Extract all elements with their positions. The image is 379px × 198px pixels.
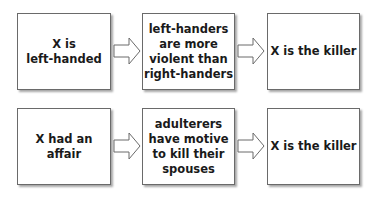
block-arrow-right-icon [113,37,141,65]
row2-conclusion-text: X is the killer [270,139,356,154]
row1-premise-text: X is left-handed [26,37,101,67]
row2-conclusion-box: X is the killer [267,108,360,185]
block-arrow-right-icon [113,132,141,160]
row2-premise-box: X had an affair [17,108,111,185]
block-arrow-right-icon [237,37,265,65]
row1-premise-box: X is left-handed [17,13,111,90]
row2-generalization-box: adulterers have motive to kill their spo… [142,108,235,185]
row1-generalization-text: left-handers are more violent than right… [144,22,233,82]
row1-generalization-box: left-handers are more violent than right… [142,13,235,90]
row2-generalization-text: adulterers have motive to kill their spo… [149,117,229,177]
row1-conclusion-box: X is the killer [267,13,360,90]
row2-premise-text: X had an affair [35,132,92,162]
row1-conclusion-text: X is the killer [270,44,356,59]
block-arrow-right-icon [237,132,265,160]
